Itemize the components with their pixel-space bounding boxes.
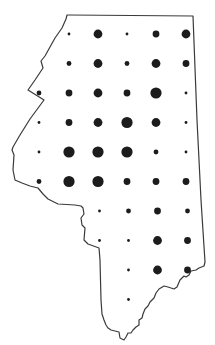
symbol-dot [37,179,42,184]
symbol-dot [63,146,74,157]
symbol-dot [124,90,131,97]
symbol-dot [127,239,130,242]
symbol-dot [94,89,103,98]
symbol-dot [126,209,131,214]
symbol-dot [67,61,72,66]
symbol-dot [92,176,103,187]
symbol-dot [92,146,103,157]
symbol-dot [127,269,130,272]
symbol-dot [185,151,188,154]
symbol-dot [154,150,159,155]
symbol-dot [66,119,73,126]
symbol-dot [184,267,191,274]
symbol-dot [121,146,132,157]
symbol-dot [125,61,130,66]
symbol-dot [63,176,74,187]
symbol-dot [94,59,103,68]
symbol-dot [184,237,191,244]
symbol-dot [124,178,131,185]
symbol-dot [185,121,188,124]
symbol-dot [153,266,162,275]
symbol-dot [185,209,190,214]
symbol-dot [94,30,103,39]
symbol-dot [66,90,73,97]
symbol-dot [68,33,71,36]
symbol-dot [185,92,188,95]
symbol-dot [152,59,161,68]
symbol-dot [183,178,190,185]
symbol-dot [121,117,132,128]
symbol-dot [183,60,190,67]
symbol-dot [153,31,160,38]
dot-map [0,0,215,345]
symbol-dot [37,91,42,96]
symbol-dot [182,30,191,39]
symbol-dot [150,87,161,98]
symbol-dot [38,121,41,124]
state-boundary [12,15,205,340]
symbol-dot [94,118,103,127]
symbol-dot [127,298,130,301]
symbol-dot [98,239,101,242]
symbol-dot [152,118,161,127]
symbol-dot [154,208,161,215]
symbol-dot [153,236,162,245]
symbol-dot [38,151,41,154]
symbol-dot [126,33,129,36]
symbol-dot [153,178,160,185]
symbol-dot [98,210,101,213]
